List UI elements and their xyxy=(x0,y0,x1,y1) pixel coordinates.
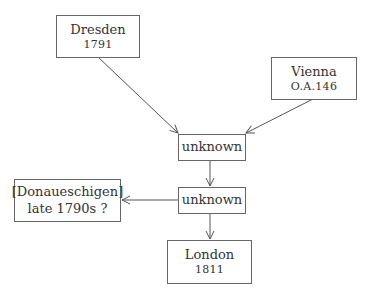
node-name: unknown xyxy=(182,139,242,155)
node-london: London 1811 xyxy=(167,240,252,284)
node-name: [Donaueschigen] xyxy=(12,184,123,200)
node-date: O.A.146 xyxy=(291,80,337,94)
node-date: late 1790s ? xyxy=(28,201,108,217)
node-unknown-2: unknown xyxy=(178,187,246,214)
node-donaueschingen: [Donaueschigen] late 1790s ? xyxy=(14,179,121,222)
node-unknown-1: unknown xyxy=(178,134,246,161)
node-vienna: Vienna O.A.146 xyxy=(271,57,357,100)
edge-vienna-unknown1 xyxy=(246,99,313,133)
node-date: 1791 xyxy=(83,38,112,52)
node-name: Dresden xyxy=(70,22,125,38)
node-date: 1811 xyxy=(195,263,224,277)
node-dresden: Dresden 1791 xyxy=(56,15,140,58)
edge-dresden-unknown1 xyxy=(98,57,178,133)
node-name: London xyxy=(185,247,234,263)
node-name: unknown xyxy=(182,192,242,208)
node-name: Vienna xyxy=(291,64,337,80)
